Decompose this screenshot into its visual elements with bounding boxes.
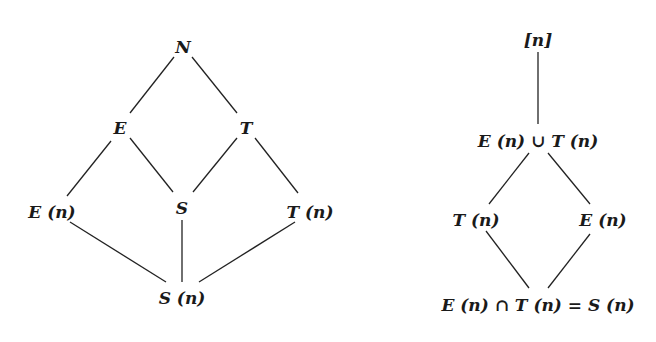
edge-E-S <box>130 138 173 192</box>
edge-N-E <box>130 57 174 113</box>
node-E-n-right: E (n) <box>578 210 626 230</box>
edge-En-inter <box>548 234 590 288</box>
edge-T-Tn <box>255 138 298 193</box>
node-E: E <box>113 118 128 138</box>
right-lattice-edges <box>486 52 590 288</box>
node-union: E (n) ∪ T (n) <box>477 131 598 151</box>
node-N: N <box>174 37 192 57</box>
left-lattice-edges <box>67 57 298 282</box>
edge-T-S <box>193 138 237 192</box>
lattice-diagrams: N E T E (n) S T (n) S (n) [n] E (n) ∪ T … <box>0 0 656 342</box>
node-top-set: [n] <box>524 30 552 50</box>
edge-N-T <box>192 57 237 113</box>
node-intersection: E (n) ∩ T (n) = S (n) <box>440 295 634 315</box>
edge-En-Sn <box>70 222 166 282</box>
node-E-n: E (n) <box>27 202 75 222</box>
node-S-n: S (n) <box>159 288 206 308</box>
edge-union-Tn <box>489 153 529 204</box>
left-lattice-nodes: N E T E (n) S T (n) S (n) <box>27 37 333 308</box>
edge-E-En <box>67 141 111 196</box>
node-S: S <box>176 198 188 218</box>
edge-union-En <box>548 153 590 204</box>
node-T-n: T (n) <box>286 202 333 222</box>
node-T-n-right: T (n) <box>452 210 499 230</box>
edge-Tn-Sn <box>199 222 295 282</box>
node-T: T <box>240 118 254 138</box>
edge-Tn-inter <box>486 231 529 288</box>
